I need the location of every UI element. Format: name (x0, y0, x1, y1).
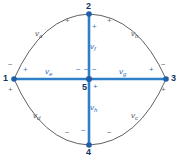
branch-vg-label-sub: g (123, 71, 126, 77)
sign-vd-plus: + (8, 86, 13, 94)
node-1-dot (11, 76, 17, 82)
branch-ve-label-sub: e (49, 71, 52, 77)
arc-vb-label: vb (131, 30, 138, 38)
sign-vb-minus: − (161, 61, 166, 69)
node-3-dot (163, 76, 169, 82)
sign-vf-minus: − (84, 66, 89, 74)
arc-va-label: va (35, 30, 42, 38)
sign-vh-plus: + (93, 83, 98, 91)
sign-ve-plus: + (23, 66, 28, 74)
graph-edges-layer (0, 0, 180, 158)
arc-vb-label-sub: b (135, 33, 138, 39)
sign-ve-minus: − (76, 66, 81, 74)
node-2-dot (86, 11, 92, 17)
node-4-label: 4 (86, 148, 91, 157)
arc-vd-label: vd (33, 112, 40, 120)
arc-vc-label-sub: c (135, 115, 138, 121)
branch-ve-label: ve (45, 68, 52, 76)
sign-vb-plus: + (107, 17, 112, 25)
node-3-label: 3 (171, 74, 176, 83)
arc-vd-path (14, 79, 89, 145)
circuit-graph-diagram: 1 2 3 4 5 va vb vc vd ve vf vg vh + − + … (0, 0, 180, 158)
sign-va-minus: − (8, 61, 13, 69)
node-1-label: 1 (3, 74, 8, 83)
sign-va-plus: + (65, 17, 70, 25)
sign-vh-minus: − (81, 127, 86, 135)
branch-vh-label-sub: h (94, 107, 97, 113)
branch-vf-label-sub: f (94, 46, 96, 52)
arc-vc-path (89, 79, 166, 145)
sign-vf-plus: + (92, 23, 97, 31)
arc-vd-label-sub: d (37, 115, 40, 121)
sign-vc-plus: + (161, 86, 166, 94)
branch-vg-label: vg (119, 68, 126, 76)
arc-vc-label: vc (131, 112, 138, 120)
sign-vg-plus: + (149, 66, 154, 74)
sign-vd-minus: − (65, 129, 70, 137)
node-5-label: 5 (82, 83, 87, 92)
sign-vc-minus: − (107, 129, 112, 137)
node-2-label: 2 (86, 2, 91, 11)
sign-vg-minus: − (92, 66, 97, 74)
arc-vb-path (89, 14, 166, 79)
branch-vf-label: vf (90, 43, 96, 51)
branch-vh-label: vh (90, 104, 97, 112)
arc-va-label-sub: a (39, 33, 42, 39)
